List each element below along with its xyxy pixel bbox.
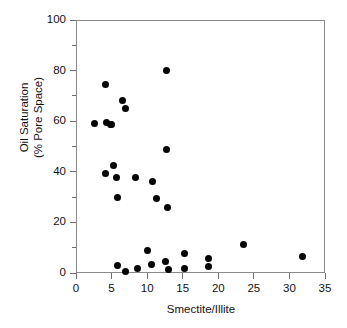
x-axis-tick-label: 15 (171, 282, 195, 294)
x-axis-major-tick (76, 273, 77, 279)
y-axis-tick-label: 80 (32, 64, 66, 76)
y-axis-major-tick (70, 121, 76, 122)
x-axis-major-tick (218, 273, 219, 279)
y-axis-major-tick (70, 70, 76, 71)
y-axis-tick-label: 100 (32, 13, 66, 25)
y-axis-minor-tick (72, 45, 76, 46)
y-axis-tick-label: 20 (32, 215, 66, 227)
data-point (119, 97, 126, 104)
data-point (122, 268, 129, 275)
y-axis-minor-tick (72, 146, 76, 147)
x-axis-major-tick (111, 273, 112, 279)
data-point (144, 247, 151, 254)
scatter-chart: Oil Saturation(% Pore Space) Smectite/Il… (0, 0, 347, 328)
data-point (181, 250, 188, 257)
y-axis-tick-label: 0 (32, 266, 66, 278)
data-point (181, 265, 188, 272)
x-axis-major-tick (325, 273, 326, 279)
x-axis-tick-label: 35 (313, 282, 337, 294)
x-axis-tick-label: 25 (242, 282, 266, 294)
data-point (132, 174, 139, 181)
y-axis-major-tick (70, 171, 76, 172)
x-axis-label: Smectite/Illite (76, 303, 326, 315)
y-axis-tick-label: 60 (32, 114, 66, 126)
y-axis-label-line1: Oil Saturation (18, 83, 30, 153)
x-axis-major-tick (253, 273, 254, 279)
data-point (205, 263, 212, 270)
data-point (205, 255, 212, 262)
x-axis-tick-label: 20 (206, 282, 230, 294)
data-point (163, 67, 170, 74)
x-axis-tick-label: 0 (64, 282, 88, 294)
plot-area (76, 20, 325, 273)
x-axis-major-tick (147, 273, 148, 279)
x-axis-tick-label: 5 (100, 282, 124, 294)
y-axis-minor-tick (72, 247, 76, 248)
x-axis-major-tick (182, 273, 183, 279)
y-axis-minor-tick (72, 197, 76, 198)
y-axis-tick-label: 40 (32, 165, 66, 177)
data-point (163, 146, 170, 153)
data-point (153, 195, 160, 202)
x-axis-major-tick (289, 273, 290, 279)
y-axis-major-tick (70, 20, 76, 21)
data-point (162, 258, 169, 265)
x-axis-tick-label: 30 (277, 282, 301, 294)
y-axis-major-tick (70, 222, 76, 223)
x-axis-tick-label: 10 (135, 282, 159, 294)
y-axis-minor-tick (72, 95, 76, 96)
